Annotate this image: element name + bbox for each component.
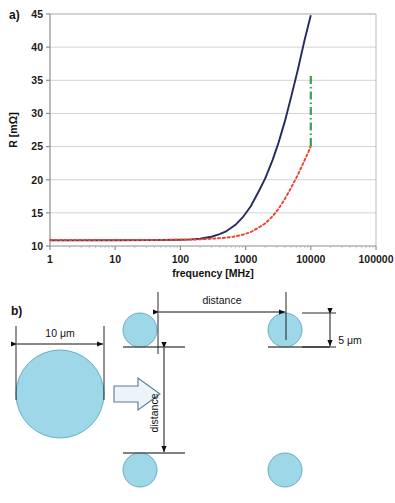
- y-tick-label: 25: [31, 140, 43, 152]
- horizontal-distance-label: distance: [202, 294, 241, 306]
- via-splitting-diagram: 10 μm 5 μm distance distance: [0, 282, 395, 503]
- chart-plot-frame: [50, 14, 376, 246]
- x-tick-label: 1000: [234, 253, 258, 265]
- small-via-circle-bottom-right: [268, 453, 302, 487]
- chart-y-tick-labels: 1015202530354045: [31, 8, 43, 252]
- chart-x-tick-labels: 110100100010000100000: [47, 253, 394, 265]
- y-tick-label: 40: [31, 41, 43, 53]
- large-via-circle: [16, 350, 104, 438]
- x-axis-title: frequency [MHz]: [172, 267, 254, 279]
- x-tick-label: 10: [109, 253, 121, 265]
- small-via-circle-top-right: [268, 313, 302, 347]
- big-circle-diameter-label: 10 μm: [45, 327, 75, 339]
- x-tick-label: 100000: [358, 253, 393, 265]
- y-tick-label: 45: [31, 8, 43, 20]
- diagram-shapes: [16, 292, 336, 487]
- small-via-circle-top-left: [123, 313, 157, 347]
- y-tick-label: 15: [31, 207, 43, 219]
- y-tick-label: 30: [31, 107, 43, 119]
- y-tick-label: 20: [31, 174, 43, 186]
- y-axis-title: R [mΩ]: [7, 112, 19, 147]
- y-tick-label: 35: [31, 74, 43, 86]
- panel-b-diagram: b) 10 μm 5 μm distance distance: [0, 282, 395, 503]
- small-circle-diameter-label: 5 μm: [338, 334, 362, 346]
- chart-series-group: [50, 15, 311, 240]
- vertical-distance-label: distance: [148, 393, 160, 432]
- chart-gridlines: [50, 14, 376, 213]
- x-tick-label: 10000: [296, 253, 325, 265]
- panel-a-chart: a) 1015202530354045 11010010001000010000…: [0, 0, 395, 282]
- y-tick-label: 10: [31, 240, 43, 252]
- resistance-vs-frequency-chart: 1015202530354045 110100100010000100000 f…: [0, 0, 395, 282]
- x-tick-label: 100: [172, 253, 190, 265]
- small-via-circle-bottom-left: [123, 453, 157, 487]
- series-solid-navy-curve: [50, 15, 311, 240]
- chart-tick-marks: [46, 14, 376, 250]
- x-tick-label: 1: [47, 253, 53, 265]
